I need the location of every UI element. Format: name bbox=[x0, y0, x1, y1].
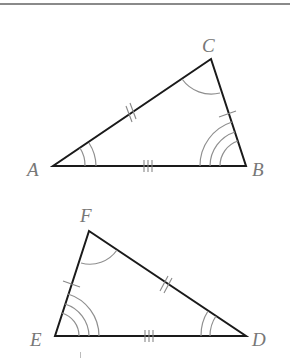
triangle-def-sides bbox=[55, 231, 246, 336]
vertex-label-f: F bbox=[79, 205, 92, 226]
vertex-label-b: B bbox=[252, 159, 264, 180]
scan-speck bbox=[80, 352, 81, 358]
vertex-label-e: E bbox=[29, 329, 42, 350]
angle-b-triple-arc bbox=[200, 122, 238, 166]
vertex-label-a: A bbox=[25, 159, 39, 180]
triangle-abc-sides bbox=[53, 59, 246, 166]
angle-f-single-arc bbox=[81, 250, 117, 264]
angle-c-single-arc bbox=[182, 79, 220, 94]
congruent-triangles-diagram: A B C bbox=[0, 0, 290, 362]
vertex-label-d: D bbox=[251, 329, 266, 350]
triangle-def: E D F bbox=[29, 205, 266, 350]
triangle-abc: A B C bbox=[25, 35, 264, 180]
vertex-label-c: C bbox=[202, 35, 215, 56]
